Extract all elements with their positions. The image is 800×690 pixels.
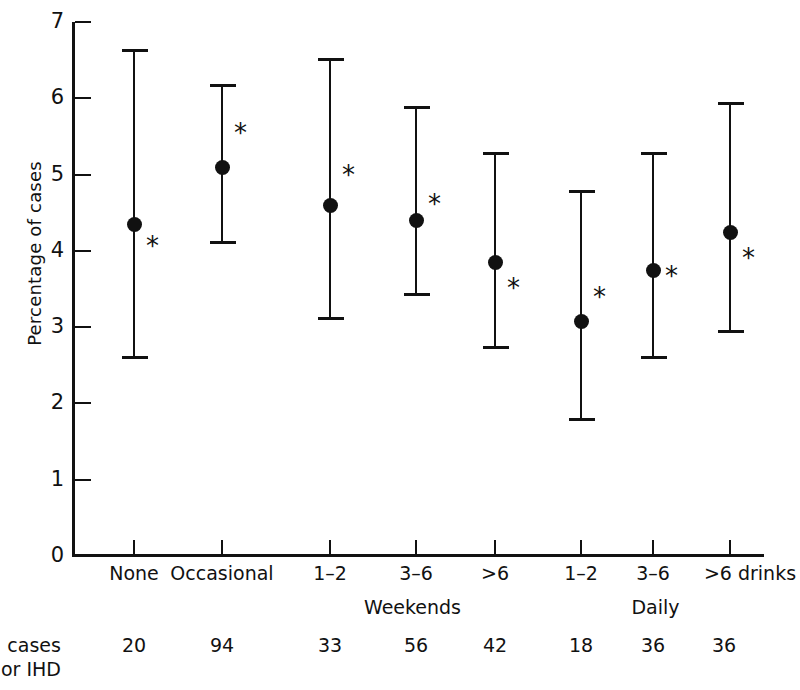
y-tick-label-3: 3 <box>34 316 64 337</box>
error-bar <box>415 106 417 295</box>
error-bar-cap-lower <box>210 241 236 244</box>
data-point-marker <box>646 263 661 278</box>
error-bar-cap-lower <box>641 356 667 359</box>
error-bar-cap-upper <box>122 49 148 52</box>
error-bar-cap-upper <box>641 152 667 155</box>
y-tick-3 <box>75 326 91 328</box>
error-bar <box>329 58 331 320</box>
error-bar <box>729 102 731 332</box>
error-bar-cap-upper <box>404 106 430 109</box>
error-bar-cap-lower <box>404 293 430 296</box>
data-point-marker <box>723 225 738 240</box>
data-point-marker <box>215 160 230 175</box>
table-cell-2: 33 <box>290 633 370 657</box>
data-point-marker <box>488 255 503 270</box>
data-point-marker <box>409 213 424 228</box>
y-axis-line <box>72 22 75 557</box>
error-bar <box>221 84 223 243</box>
data-point-marker <box>574 314 589 329</box>
x-tick-2 <box>329 540 331 557</box>
significance-star: * <box>593 287 606 307</box>
table-cell-6: 36 <box>613 633 693 657</box>
error-bar-cap-lower <box>318 317 344 320</box>
significance-star: * <box>507 278 520 298</box>
x-tick-6 <box>652 540 654 557</box>
error-bar-cap-upper <box>718 102 744 105</box>
category-label-7: >6 drinks <box>675 562 800 584</box>
error-bar <box>133 49 135 358</box>
x-tick-4 <box>494 540 496 557</box>
y-tick-label-2: 2 <box>34 392 64 413</box>
data-point-marker <box>127 217 142 232</box>
table-cell-4: 42 <box>455 633 535 657</box>
significance-star: * <box>742 248 755 268</box>
y-tick-0 <box>75 555 91 557</box>
x-tick-7 <box>729 540 731 557</box>
error-bar-cap-upper <box>569 190 595 193</box>
table-cell-7: 36 <box>684 633 764 657</box>
table-cell-1: 94 <box>182 633 262 657</box>
y-tick-label-5: 5 <box>34 164 64 185</box>
error-bar <box>580 190 582 420</box>
y-tick-6 <box>75 97 91 99</box>
error-bar-cap-lower <box>718 330 744 333</box>
y-tick-label-7: 7 <box>34 11 64 32</box>
error-bar-cap-upper <box>210 84 236 87</box>
error-bar-cap-upper <box>318 58 344 61</box>
significance-star: * <box>342 165 355 185</box>
x-axis-line <box>72 554 764 557</box>
significance-star: * <box>428 194 441 214</box>
x-tick-0 <box>133 540 135 557</box>
y-tick-5 <box>75 174 91 176</box>
y-tick-label-1: 1 <box>34 469 64 490</box>
y-tick-label-6: 6 <box>34 87 64 108</box>
error-bar <box>652 152 654 358</box>
y-tick-4 <box>75 250 91 252</box>
table-cell-0: 20 <box>94 633 174 657</box>
y-tick-1 <box>75 479 91 481</box>
significance-star: * <box>146 236 159 256</box>
group-label-daily: Daily <box>556 596 756 618</box>
x-tick-5 <box>580 540 582 557</box>
data-point-marker <box>323 198 338 213</box>
table-row-label-line2: ajor IHD <box>0 657 126 681</box>
y-tick-7 <box>75 21 91 23</box>
error-bar-cap-lower <box>483 346 509 349</box>
y-tick-label-4: 4 <box>34 240 64 261</box>
group-label-weekends: Weekends <box>313 596 513 618</box>
error-bar-cap-lower <box>122 356 148 359</box>
error-bar-cap-lower <box>569 418 595 421</box>
significance-star: * <box>234 123 247 143</box>
table-cell-5: 18 <box>541 633 621 657</box>
error-bar-cap-upper <box>483 152 509 155</box>
significance-star: * <box>665 266 678 286</box>
x-tick-3 <box>415 540 417 557</box>
y-tick-2 <box>75 402 91 404</box>
error-bar <box>494 152 496 348</box>
table-cell-3: 56 <box>376 633 456 657</box>
x-tick-1 <box>221 540 223 557</box>
